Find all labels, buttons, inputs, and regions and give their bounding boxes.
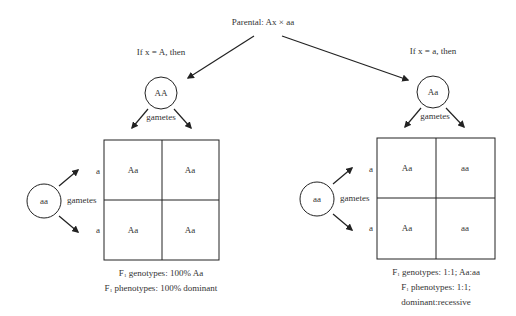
- right-cell-r1c2: aa: [461, 163, 469, 173]
- right-results: F1 genotypes: 1:1; Aa:aa F1 phenotypes: …: [392, 266, 480, 308]
- left-row-allele-1: a: [96, 166, 100, 176]
- left-condition-label: If x = A, then: [137, 47, 185, 58]
- left-phenotypes-line: F1 phenotypes: 100% dominant: [105, 282, 218, 297]
- left-cell-r2c2: Aa: [185, 225, 196, 235]
- right-other-parent-genotype: aa: [313, 194, 321, 204]
- right-cell-r2c1: Aa: [402, 223, 413, 233]
- left-cell-r1c2: Aa: [185, 165, 196, 175]
- left-cell-r1c1: Aa: [128, 165, 139, 175]
- arrow-to-right-branch: [282, 36, 408, 80]
- right-gametes-label-top: gametes: [420, 111, 450, 122]
- right-condition-label: If x = a, then: [410, 46, 456, 57]
- parental-cross-title: Parental: Ax × aa: [232, 17, 294, 28]
- left-gametes-label-side: gametes: [67, 195, 97, 206]
- right-row-allele-2: a: [369, 223, 373, 233]
- left-results: F1 genotypes: 100% Aa F1 phenotypes: 100…: [105, 267, 218, 297]
- left-other-parent-genotype: aa: [40, 196, 48, 206]
- right-cell-r2c2: aa: [461, 223, 469, 233]
- right-row-allele-1: a: [369, 164, 373, 174]
- right-gametes-label-side: gametes: [340, 193, 370, 204]
- right-phenotypes-line-2: dominant:recessive: [392, 296, 480, 308]
- left-cell-r2c1: Aa: [128, 225, 139, 235]
- left-row-allele-2: a: [96, 225, 100, 235]
- left-genotypes-line: F1 genotypes: 100% Aa: [105, 267, 218, 282]
- arrow-to-left-branch: [188, 36, 254, 78]
- left-gametes-label-top: gametes: [146, 112, 176, 123]
- right-parent-genotype: Aa: [428, 87, 439, 97]
- left-parent-genotype: AA: [155, 88, 168, 98]
- right-phenotypes-line: F1 phenotypes: 1:1;: [392, 281, 480, 296]
- right-cell-r1c1: Aa: [402, 163, 413, 173]
- right-genotypes-line: F1 genotypes: 1:1; Aa:aa: [392, 266, 480, 281]
